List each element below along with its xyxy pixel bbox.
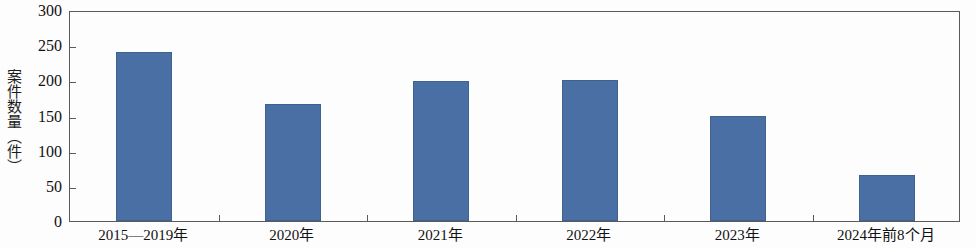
x-axis-tick-mark <box>813 215 814 221</box>
x-axis-tick-mark <box>219 215 220 221</box>
x-axis-tick-label: 2015—2019年 <box>98 226 188 245</box>
x-axis-tick-label-group: 2015—2019年2020年2021年2022年2023年2024年前8个月 <box>69 226 960 248</box>
x-axis-tick-mark <box>664 215 665 221</box>
x-axis-tick-mark <box>516 215 517 221</box>
y-axis-tick-label: 150 <box>20 109 62 125</box>
y-axis-tick-mark <box>70 188 76 189</box>
bar <box>859 175 915 221</box>
y-axis-tick-mark <box>70 118 76 119</box>
y-axis-tick-label-group: 050100150200250300 <box>20 0 62 248</box>
bar <box>265 104 321 221</box>
y-axis-tick-label: 200 <box>20 73 62 89</box>
x-axis-tick-label: 2024年前8个月 <box>837 226 935 245</box>
y-axis-tick-label: 50 <box>20 179 62 195</box>
y-axis-tick-mark <box>70 47 76 48</box>
y-axis-tick-label: 300 <box>20 3 62 19</box>
y-axis-tick-mark <box>70 82 76 83</box>
x-axis-tick-label: 2023年 <box>715 226 760 245</box>
y-axis-tick-label: 100 <box>20 144 62 160</box>
bar <box>413 81 469 221</box>
x-axis-tick-label: 2020年 <box>269 226 314 245</box>
y-axis-tick-mark <box>70 153 76 154</box>
x-axis-tick-label: 2021年 <box>418 226 463 245</box>
bar <box>562 80 618 221</box>
bar-chart-figure: 案件数量（件） 050100150200250300 2015—2019年202… <box>0 0 976 248</box>
plot-area <box>69 11 960 222</box>
bar <box>710 116 766 221</box>
y-axis-tick-label: 250 <box>20 38 62 54</box>
y-axis-tick-label: 0 <box>20 214 62 230</box>
x-axis-tick-label: 2022年 <box>566 226 611 245</box>
x-axis-tick-mark <box>367 215 368 221</box>
bar <box>116 52 172 221</box>
